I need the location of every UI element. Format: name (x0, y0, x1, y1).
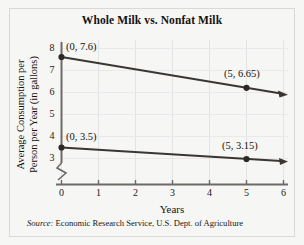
y-axis-title-line1: Average Consumption per (15, 49, 28, 181)
data-point-nonfat-5 (243, 156, 249, 162)
x-tick-label-4: 4 (202, 187, 218, 198)
y-axis-title: Average Consumption per Person per Year … (15, 49, 40, 181)
y-tick-label-3: 3 (44, 152, 60, 163)
x-tick-label-1: 1 (91, 187, 107, 198)
y-axis-title-line2: Person per Year (in gallons) (27, 49, 40, 181)
annotation-whole-left: (0, 7.6) (66, 41, 97, 52)
annotation-nonfat-left: (0, 3.5) (66, 131, 97, 142)
x-tick-label-6: 6 (276, 187, 292, 198)
source-note: Source: Economic Research Service, U.S. … (27, 218, 243, 228)
data-point-whole-5 (243, 85, 249, 91)
x-tick-label-3: 3 (165, 187, 181, 198)
source-text: Economic Research Service, U.S. Dept. of… (56, 218, 244, 228)
chart-figure: Whole Milk vs. Nonfat Milk (0, 0, 304, 245)
x-tick-label-5: 5 (239, 187, 255, 198)
y-tick-label-7: 7 (44, 64, 60, 75)
y-tick-label-8: 8 (44, 42, 60, 53)
data-point-whole-0 (58, 54, 64, 60)
y-tick-label-4: 4 (44, 130, 60, 141)
data-point-nonfat-0 (58, 144, 64, 150)
annotation-nonfat-right: (5, 3.15) (222, 140, 258, 151)
source-label: Source: (27, 218, 53, 228)
y-tick-label-5: 5 (44, 108, 60, 119)
x-axis-title: Years (60, 203, 284, 215)
annotation-whole-right: (5, 6.65) (224, 68, 260, 79)
x-tick-label-0: 0 (54, 187, 70, 198)
x-tick-label-2: 2 (128, 187, 144, 198)
y-tick-label-6: 6 (44, 86, 60, 97)
